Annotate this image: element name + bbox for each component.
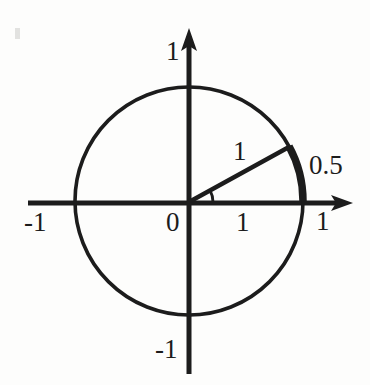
y-axis-top-label: 1	[166, 38, 180, 65]
y-axis-bottom-label: -1	[155, 336, 178, 363]
x-unit-label: 1	[236, 209, 250, 236]
unit-circle-drawing	[0, 0, 370, 385]
arc-length-label: 0.5	[309, 152, 343, 179]
angle-marker-arc	[210, 191, 213, 203]
x-axis-right-label: 1	[316, 208, 330, 235]
origin-label: 0	[166, 209, 180, 236]
radius-length-label: 1	[233, 138, 247, 165]
unit-circle-figure: 1 -1 -1 1 0 1 1 0.5	[0, 0, 370, 385]
x-axis-left-label: -1	[24, 209, 47, 236]
highlighted-arc-segment	[289, 146, 303, 201]
